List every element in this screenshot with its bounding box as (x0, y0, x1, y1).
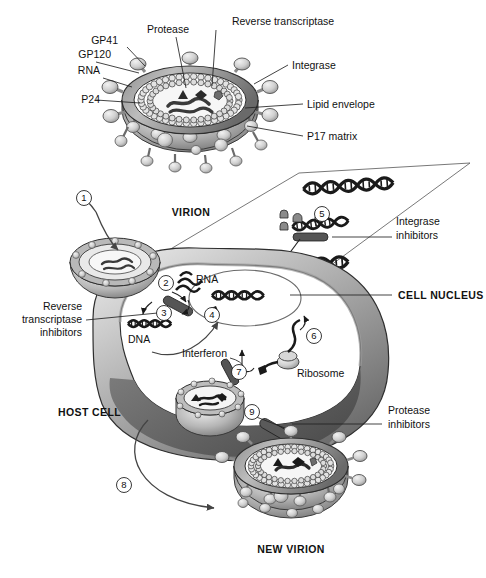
matrix-bead (292, 448, 297, 453)
matrix-bead (292, 478, 297, 483)
matrix-bead (266, 452, 271, 457)
label-lipid-envelope: Lipid envelope (307, 98, 375, 110)
matrix-bead (310, 474, 315, 479)
label-p17-matrix: P17 matrix (307, 130, 358, 142)
matrix-bead (278, 449, 283, 454)
matrix-bead (299, 478, 304, 483)
matrix-bead (191, 117, 197, 123)
matrix-bead (217, 111, 223, 117)
step-number-label: 9 (249, 406, 254, 417)
step-number-label: 2 (163, 277, 168, 288)
matrix-bead (285, 478, 290, 483)
label-gp41: GP41 (91, 34, 118, 46)
label-integrase-inhibitors-line2: inhibitors (396, 229, 438, 241)
matrix-bead (163, 83, 169, 89)
label-p24: P24 (81, 93, 100, 105)
matrix-bead (176, 116, 182, 122)
matrix-bead (226, 95, 232, 101)
step-number-label: 3 (161, 307, 166, 318)
matrix-bead (163, 113, 169, 119)
step-number-label: 6 (311, 330, 316, 341)
step-marker-3[interactable]: 3 (157, 306, 172, 321)
matrix-bead (321, 460, 326, 465)
matrix-bead (183, 117, 189, 123)
matrix-bead (156, 78, 162, 84)
host-dna-helix-top (303, 177, 394, 194)
matrix-bead (198, 116, 204, 122)
label-ribosome: Ribosome (297, 367, 344, 379)
caption-host-cell: HOST CELL (58, 406, 121, 418)
matrix-bead (169, 75, 175, 81)
caption-cell-nucleus: CELL NUCLEUS (398, 289, 484, 301)
step-marker-4[interactable]: 4 (205, 308, 220, 323)
label-rna: RNA (78, 64, 100, 76)
step-marker-5[interactable]: 5 (315, 207, 330, 222)
step-marker-6[interactable]: 6 (307, 329, 322, 344)
matrix-bead (305, 450, 310, 455)
label-gp120: GP120 (78, 48, 111, 60)
label-rt-inhibitors-line2: transcriptase (22, 313, 82, 325)
label-protease: Protease (147, 23, 189, 35)
label-integrase-inhibitors-line1: Integrase (396, 215, 440, 227)
matrix-bead (198, 80, 204, 86)
matrix-bead (272, 476, 277, 481)
step-number-label: 1 (81, 192, 86, 203)
new-virion-illustration (215, 426, 367, 519)
step-marker-2[interactable]: 2 (159, 276, 174, 291)
label-protease-inhibitors-line1: Protease (388, 404, 430, 416)
matrix-bead (169, 115, 175, 121)
label-dna: DNA (128, 333, 150, 345)
matrix-bead (272, 450, 277, 455)
caption-new-virion: NEW VIRION (257, 543, 325, 555)
integrase-fragments (280, 210, 302, 230)
matrix-bead (176, 80, 182, 86)
matrix-bead (205, 81, 211, 87)
label-rt-inhibitors-line1: Reverse (43, 300, 82, 312)
matrix-bead (305, 476, 310, 481)
step-marker-7[interactable]: 7 (232, 365, 247, 380)
label-integrase: Integrase (292, 59, 336, 71)
label-rna-cytoplasm: RNA (196, 273, 218, 285)
step-marker-1[interactable]: 1 (77, 191, 92, 206)
step-number-label: 5 (319, 208, 324, 219)
label-reverse-transcriptase: Reverse transcriptase (232, 15, 334, 27)
matrix-bead (169, 81, 175, 87)
step-marker-8[interactable]: 8 (117, 478, 132, 493)
matrix-bead (285, 448, 290, 453)
step-number-label: 8 (121, 479, 126, 490)
caption-virion: VIRION (172, 206, 211, 218)
label-rt-inhibitors-line3: inhibitors (40, 326, 82, 338)
matrix-bead (299, 449, 304, 454)
matrix-bead (176, 74, 182, 80)
step-number-label: 4 (209, 309, 214, 320)
step-number-label: 7 (236, 366, 241, 377)
budding-virion (176, 378, 244, 436)
matrix-bead (205, 115, 211, 121)
matrix-bead (278, 478, 283, 483)
hiv-replication-diagram: GP120 GP41 RNA P24 Protease Reverse tran… (0, 0, 486, 578)
label-protease-inhibitors-line2: inhibitors (388, 418, 430, 430)
matrix-bead (211, 113, 217, 119)
step-marker-9[interactable]: 9 (245, 405, 260, 420)
matrix-bead (191, 79, 197, 85)
matrix-bead (162, 76, 168, 82)
matrix-bead (235, 93, 241, 99)
diagram-canvas: GP120 GP41 RNA P24 Protease Reverse tran… (0, 0, 486, 578)
integrase-inhibitor-bar (293, 233, 328, 241)
matrix-bead (198, 74, 204, 80)
matrix-bead (328, 460, 334, 466)
matrix-bead (205, 75, 211, 81)
matrix-bead (157, 85, 163, 91)
label-interferon: Interferon (182, 347, 227, 359)
